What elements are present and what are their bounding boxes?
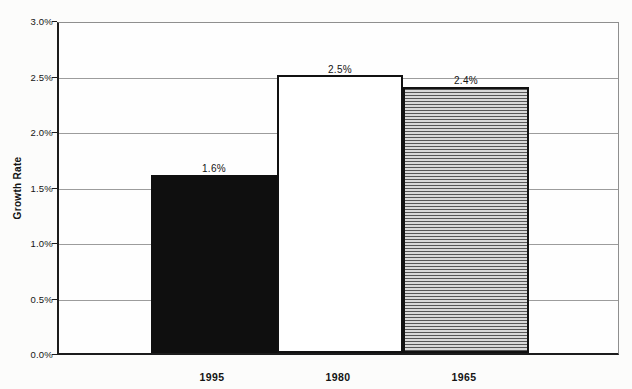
y-tick-label: 1.0%: [13, 238, 53, 249]
bar-1965: [403, 87, 529, 353]
x-axis-label-1965: 1965: [452, 371, 477, 383]
x-axis-label-1980: 1980: [326, 371, 351, 383]
plot-area: 1.6%2.5%2.4%: [57, 22, 619, 355]
y-tick-label: 2.0%: [13, 127, 53, 138]
bar-1995: [151, 175, 277, 353]
y-tick-label: 3.0%: [13, 16, 53, 27]
bar-value-label: 1.6%: [202, 163, 226, 174]
y-tick-label: 2.5%: [13, 72, 53, 83]
y-tick-label: 0.5%: [13, 294, 53, 305]
growth-rate-bar-chart: Growth Rate 3.0%2.5%2.0%1.5%1.0%0.5%0.0%…: [0, 0, 632, 389]
bar-value-label: 2.5%: [328, 64, 352, 75]
bar-value-label: 2.4%: [454, 75, 478, 86]
bar-1980: [277, 75, 403, 353]
x-axis-label-1995: 1995: [200, 371, 225, 383]
y-tick-label: 0.0%: [13, 349, 53, 360]
y-tick-label: 1.5%: [13, 183, 53, 194]
